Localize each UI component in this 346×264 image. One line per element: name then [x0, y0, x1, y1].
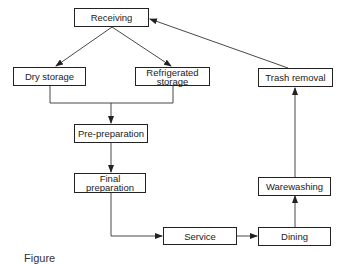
node-trash-removal: Trash removal: [258, 68, 333, 87]
node-trash-removal-label: Trash removal: [265, 73, 325, 82]
node-final-preparation-label: Final preparation: [75, 174, 145, 192]
node-dining: Dining: [258, 227, 331, 246]
arrow-receiving-to-refrigerated: [112, 27, 171, 66]
node-dining-label: Dining: [281, 232, 308, 241]
figure-caption: Figure: [24, 252, 55, 264]
node-receiving: Receiving: [74, 8, 149, 27]
node-receiving-label: Receiving: [91, 13, 133, 22]
storage-merge-line: [50, 86, 173, 103]
node-dry-storage: Dry storage: [13, 67, 86, 86]
arrow-to-service: [111, 193, 162, 236]
node-warewashing: Warewashing: [258, 177, 331, 196]
node-pre-preparation-label: Pre-preparation: [78, 129, 144, 138]
arrow-receiving-to-dry-storage: [56, 27, 112, 66]
node-warewashing-label: Warewashing: [266, 182, 323, 191]
node-dry-storage-label: Dry storage: [25, 72, 74, 81]
node-refrigerated-storage: Refrigerated storage: [135, 67, 210, 86]
node-pre-preparation: Pre-preparation: [74, 124, 148, 143]
node-service-label: Service: [184, 232, 216, 241]
node-final-preparation: Final preparation: [74, 173, 146, 193]
node-service: Service: [163, 227, 237, 245]
node-refrigerated-storage-label-2: storage: [157, 77, 189, 86]
arrow-to-receiving: [150, 19, 288, 68]
